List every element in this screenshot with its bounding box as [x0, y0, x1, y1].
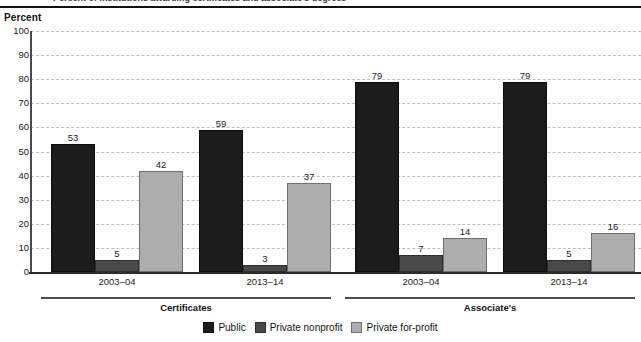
bar-value-label: 37 [304, 171, 315, 182]
bar-value-label: 5 [566, 248, 571, 259]
y-axis-line [30, 31, 32, 272]
legend-item-label: Public [218, 322, 245, 333]
bar: 5 [95, 260, 139, 272]
legend-item-label: Private for-profit [366, 322, 437, 333]
y-axis-tick-label: 60 [3, 121, 29, 132]
bar: 5 [547, 260, 591, 272]
gridline [31, 248, 641, 249]
y-axis-tick-label: 10 [3, 242, 29, 253]
bar-value-label: 3 [262, 253, 267, 264]
chart-title: Percent of institutions awarding certifi… [53, 0, 346, 3]
bar-value-label: 7 [418, 243, 423, 254]
bar-value-label: 53 [68, 132, 79, 143]
bar-chart-figure: Percent of institutions awarding certifi… [0, 0, 641, 342]
bar-value-label: 79 [520, 70, 531, 81]
bar: 53 [51, 144, 95, 272]
y-axis-tick-label: 90 [3, 49, 29, 60]
y-axis-tick-label: 50 [3, 146, 29, 157]
gridline [31, 127, 641, 128]
bar: 59 [199, 130, 243, 272]
bar: 42 [139, 171, 183, 272]
chart-legend: PublicPrivate nonprofitPrivate for-profi… [0, 322, 641, 333]
gridline [31, 176, 641, 177]
section-label: Associate's [464, 302, 516, 313]
section-rule [345, 297, 635, 299]
legend-item[interactable]: Private nonprofit [255, 322, 343, 333]
y-axis-tick-label: 20 [3, 218, 29, 229]
legend-item[interactable]: Private for-profit [351, 322, 437, 333]
bar-value-label: 5 [114, 248, 119, 259]
bar: 3 [243, 265, 287, 272]
bar-value-label: 79 [372, 70, 383, 81]
y-axis-tick-labels: 1009080706050403020100 [0, 31, 29, 272]
bar: 37 [287, 183, 331, 272]
bar-value-label: 16 [608, 221, 619, 232]
bar: 79 [355, 82, 399, 272]
legend-swatch-icon [203, 322, 214, 333]
title-divider-rule [0, 6, 641, 8]
x-axis-tick-label: 2003–04 [99, 276, 136, 287]
x-axis-tick-label: 2013–14 [551, 276, 588, 287]
x-axis-tick-label: 2003–04 [403, 276, 440, 287]
x-axis-line [29, 272, 641, 274]
bar-value-label: 14 [460, 226, 471, 237]
y-axis-tick-label: 80 [3, 73, 29, 84]
y-axis-tick-label: 0 [3, 266, 29, 277]
legend-swatch-icon [255, 322, 266, 333]
bar-value-label: 59 [216, 118, 227, 129]
legend-item-label: Private nonprofit [270, 322, 343, 333]
y-axis-tick-label: 30 [3, 194, 29, 205]
bar: 14 [443, 238, 487, 272]
x-axis-tick-label: 2013–14 [247, 276, 284, 287]
y-axis-tick-label: 40 [3, 170, 29, 181]
section-label: Certificates [160, 302, 212, 313]
gridline [31, 31, 641, 32]
legend-item[interactable]: Public [203, 322, 245, 333]
bar: 7 [399, 255, 443, 272]
gridline [31, 55, 641, 56]
gridline [31, 200, 641, 201]
y-axis-tick-label: 70 [3, 97, 29, 108]
gridline [31, 152, 641, 153]
bar: 16 [591, 233, 635, 272]
gridline [31, 224, 641, 225]
gridline [31, 79, 641, 80]
y-axis-title: Percent [4, 12, 41, 23]
legend-swatch-icon [351, 322, 362, 333]
bar: 79 [503, 82, 547, 272]
gridline [31, 103, 641, 104]
section-rule [41, 297, 331, 299]
plot-area: 53542593377971479516 [31, 31, 641, 272]
bar-value-label: 42 [156, 159, 167, 170]
y-axis-tick-label: 100 [3, 25, 29, 36]
